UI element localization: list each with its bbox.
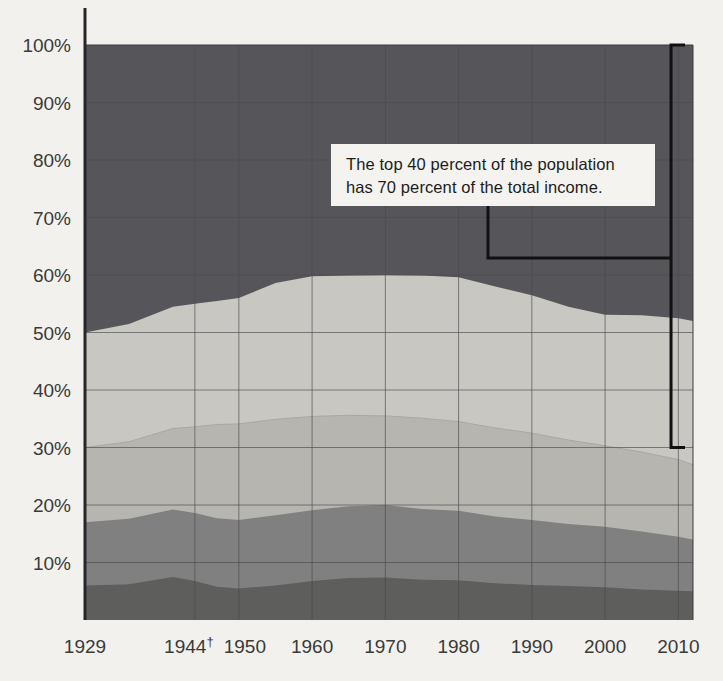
y-tick-label: 60% [33,265,71,286]
x-tick-footnote-marker: † [206,634,213,649]
x-tick-label: 2010 [657,636,699,657]
y-tick-label: 10% [33,553,71,574]
x-tick-label: 1970 [364,636,406,657]
y-tick-label: 80% [33,150,71,171]
x-tick-label: 1929 [64,636,106,657]
x-tick-labels: 19291944†1950196019701980199020002010 [64,634,700,657]
y-tick-label: 50% [33,323,71,344]
x-tick-label: 1950 [224,636,266,657]
income-distribution-chart: 100%90%80%70%60%50%40%30%20%10% 19291944… [0,0,723,681]
y-tick-label: 90% [33,93,71,114]
chart-svg: 100%90%80%70%60%50%40%30%20%10% 19291944… [0,0,723,681]
y-tick-label: 20% [33,495,71,516]
y-tick-label: 30% [33,438,71,459]
x-tick-label: 1944† [164,634,214,657]
callout-line-2: has 70 percent of the total income. [346,176,641,199]
x-tick-label: 2000 [584,636,626,657]
y-tick-label: 40% [33,380,71,401]
y-tick-label: 100% [22,35,71,56]
y-tick-label: 70% [33,208,71,229]
callout-line-1: The top 40 percent of the population [346,153,641,176]
x-tick-label: 1960 [291,636,333,657]
x-tick-label: 1990 [511,636,553,657]
x-tick-label: 1980 [437,636,479,657]
callout-box: The top 40 percent of the population has… [331,144,655,206]
chart-page: 100%90%80%70%60%50%40%30%20%10% 19291944… [0,0,723,681]
y-tick-labels: 100%90%80%70%60%50%40%30%20%10% [22,35,71,574]
